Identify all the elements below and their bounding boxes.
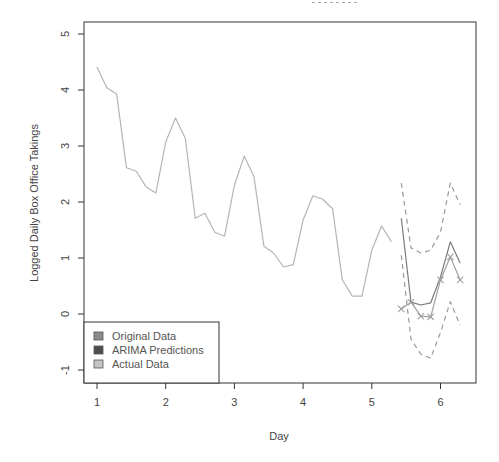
legend-label: ARIMA Predictions	[112, 344, 204, 356]
x-tick-label: 3	[231, 396, 237, 408]
y-tick-label: 2	[59, 199, 71, 205]
x-tick-label: 2	[163, 396, 169, 408]
original-data-line	[97, 67, 391, 296]
y-tick-label: 4	[59, 87, 71, 93]
legend-label: Original Data	[112, 330, 177, 342]
y-tick-label: -1	[59, 365, 71, 375]
actual-data-line	[401, 257, 460, 317]
chart: -1012345 123456 Day Logged Daily Box Off…	[0, 0, 499, 462]
x-tick-label: 4	[300, 396, 306, 408]
y-tick-label: 1	[59, 255, 71, 261]
x-marker-icon	[398, 306, 404, 312]
legend-swatch	[94, 346, 103, 354]
y-tick-label: 3	[59, 143, 71, 149]
x-tick-label: 5	[369, 396, 375, 408]
legend: Original DataARIMA PredictionsActual Dat…	[84, 322, 219, 383]
x-marker-icon	[457, 277, 463, 283]
arima-predictions-line	[401, 218, 460, 305]
y-tick-label: 5	[59, 31, 71, 37]
legend-swatch	[94, 332, 103, 340]
series-layer	[97, 67, 463, 358]
legend-swatch	[94, 360, 103, 368]
legend-label: Actual Data	[112, 358, 170, 370]
lower-prediction-interval-line	[401, 255, 460, 358]
x-tick-label: 1	[94, 396, 100, 408]
x-tick-label: 6	[437, 396, 443, 408]
x-axis-label: Day	[269, 430, 289, 442]
y-axis: -1012345	[59, 31, 84, 375]
y-axis-label: Logged Daily Box Office Takings	[28, 124, 40, 282]
x-marker-icon	[447, 254, 453, 260]
x-axis: 123456	[94, 383, 444, 408]
y-tick-label: 0	[59, 311, 71, 317]
